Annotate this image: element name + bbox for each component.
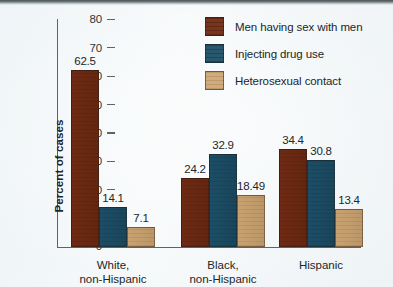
bar-fill: [307, 160, 335, 247]
bar[interactable]: 18.49: [237, 195, 265, 247]
bar[interactable]: 14.1: [99, 207, 127, 247]
bar-value-label: 30.8: [310, 145, 332, 157]
chart-legend: Men having sex with menInjecting drug us…: [205, 13, 362, 94]
bar-fill: [209, 154, 237, 247]
x-axis-category-label: Hispanic: [279, 259, 363, 273]
bar[interactable]: 34.4: [279, 149, 307, 247]
bar-value-label: 34.4: [282, 134, 304, 146]
bar-value-label: 32.9: [212, 139, 234, 151]
bar[interactable]: 62.5: [71, 70, 99, 247]
legend-label: Heterosexual contact: [235, 75, 341, 87]
bar-value-label: 14.1: [102, 192, 124, 204]
bar-fill: [71, 70, 99, 247]
legend-label: Injecting drug use: [235, 48, 324, 60]
bar[interactable]: 30.8: [307, 160, 335, 247]
legend-color-swatch: [205, 44, 224, 63]
legend-item[interactable]: Injecting drug use: [205, 40, 362, 67]
legend-color-swatch: [205, 71, 224, 90]
scan-edge-artifact: [0, 0, 393, 5]
legend-item[interactable]: Men having sex with men: [205, 13, 362, 40]
bar[interactable]: 24.2: [181, 178, 209, 247]
x-axis-category-label: Black, non-Hispanic: [181, 259, 265, 286]
bar-fill: [181, 178, 209, 247]
bar-value-label: 13.4: [338, 194, 360, 206]
x-axis-line: [57, 247, 361, 248]
bar-group-bars: 62.514.17.1: [71, 20, 155, 247]
bar[interactable]: 32.9: [209, 154, 237, 247]
bar-value-label: 18.49: [237, 180, 265, 192]
bar-value-label: 24.2: [184, 163, 206, 175]
bar-value-label: 62.5: [74, 55, 96, 67]
bar-fill: [127, 227, 155, 247]
x-axis-category-label: White, non-Hispanic: [71, 259, 155, 286]
bar[interactable]: 7.1: [127, 227, 155, 247]
bar-fill: [99, 207, 127, 247]
bar-fill: [237, 195, 265, 247]
bar-fill: [279, 149, 307, 247]
chart-screenshot: Percent of cases 01020304050607080 62.51…: [0, 0, 393, 287]
legend-item[interactable]: Heterosexual contact: [205, 67, 362, 94]
bar[interactable]: 13.4: [335, 209, 363, 247]
bar-value-label: 7.1: [133, 212, 148, 224]
bar-group: 62.514.17.1White, non-Hispanic: [71, 20, 155, 247]
legend-label: Men having sex with men: [235, 21, 362, 33]
legend-color-swatch: [205, 17, 224, 36]
bar-fill: [335, 209, 363, 247]
